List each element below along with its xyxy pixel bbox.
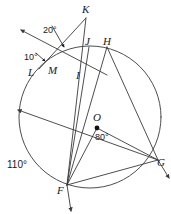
segment-H-to-G (107, 47, 158, 160)
center-point-dot-O (95, 126, 100, 131)
segment-K-to-F (67, 18, 86, 185)
point-label-M: M (48, 65, 57, 76)
point-label-H: H (103, 36, 111, 47)
angle-label-80: 80° (95, 133, 109, 142)
geometry-canvas (0, 0, 171, 214)
secant-line-through-L-and-G (18, 110, 158, 160)
point-label-J: J (85, 36, 90, 47)
point-label-I: I (76, 70, 80, 81)
angle-label-20: 20° (43, 26, 57, 35)
segment-F-to-G (67, 160, 158, 185)
segment-H-to-F (67, 47, 107, 185)
point-label-O: O (93, 112, 101, 123)
ray-below-F (67, 185, 71, 211)
point-label-F: F (57, 185, 64, 196)
point-label-L: L (28, 67, 34, 78)
point-label-G: G (157, 157, 165, 168)
angle-label-10: 10° (24, 53, 38, 62)
point-label-K: K (82, 4, 89, 15)
geometry-figure: K J H I M L O G F 20° 10° 80° 110° (0, 0, 171, 214)
arc-label-110: 110° (7, 160, 27, 170)
